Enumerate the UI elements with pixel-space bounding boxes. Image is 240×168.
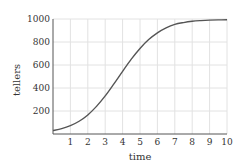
x-tick-label: 7	[172, 137, 178, 147]
x-tick-label: 6	[155, 137, 161, 147]
grid	[53, 19, 227, 134]
x-tick-label: 10	[221, 137, 233, 147]
y-tick-label: 800	[33, 37, 50, 47]
x-tick-label: 5	[137, 137, 143, 147]
logistic-chart: 12345678910 2004006008001000 time teller…	[0, 0, 240, 168]
y-axis-label: tellers	[11, 64, 22, 96]
x-tick-label: 2	[85, 137, 91, 147]
x-tick-label: 4	[120, 137, 126, 147]
y-tick-label: 600	[33, 60, 50, 70]
x-tick-label: 9	[207, 137, 213, 147]
x-axis-label: time	[129, 151, 152, 162]
y-tick-label: 1000	[27, 14, 50, 24]
y-tick-label: 200	[33, 106, 50, 116]
y-tick-labels: 2004006008001000	[27, 14, 50, 116]
x-tick-labels: 12345678910	[68, 137, 233, 147]
x-tick-label: 8	[189, 137, 195, 147]
x-tick-label: 3	[102, 137, 108, 147]
x-tick-label: 1	[68, 137, 74, 147]
y-tick-label: 400	[33, 83, 50, 93]
